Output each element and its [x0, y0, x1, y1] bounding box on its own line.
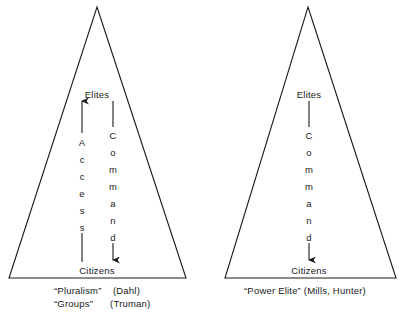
pluralism-top-node-label: Elites	[85, 89, 109, 100]
command-letter-right: n	[302, 216, 316, 226]
command-letter-right: m	[302, 165, 316, 175]
command-letter-right: C	[302, 131, 316, 141]
command-letter-right: o	[302, 148, 316, 158]
command-letter-right: m	[302, 182, 316, 192]
access-letter: A	[75, 138, 89, 148]
command-letter-left: o	[106, 148, 120, 158]
command-letter-right: d	[302, 233, 316, 243]
pluralism-caption-line-2: “Groups” (Truman)	[54, 298, 150, 309]
command-letter-left: C	[106, 131, 120, 141]
access-letter: c	[75, 155, 89, 165]
command-letter-left: m	[106, 182, 120, 192]
command-letter-left: a	[106, 199, 120, 209]
power-elite-bottom-node-label: Citizens	[291, 265, 326, 276]
power-models-diagram: Elites Citizens A c c e s s C o m m a n …	[0, 0, 402, 316]
pluralism-bottom-node-label: Citizens	[79, 265, 114, 276]
command-letter-right: a	[302, 199, 316, 209]
diagram-vector-layer	[0, 0, 402, 316]
power-elite-top-node-label: Elites	[297, 89, 321, 100]
command-letter-left: d	[106, 233, 120, 243]
access-letter: e	[75, 189, 89, 199]
power-elite-caption-line-1: “Power Elite” (Mills, Hunter)	[244, 285, 366, 296]
pluralism-triangle-group	[9, 7, 186, 278]
access-letter: s	[75, 206, 89, 216]
command-letter-left: n	[106, 216, 120, 226]
access-letter: s	[75, 223, 89, 233]
pluralism-triangle-outline	[9, 7, 186, 278]
pluralism-caption-line-1: “Pluralism” (Dahl)	[54, 285, 140, 296]
command-letter-left: m	[106, 165, 120, 175]
access-letter: c	[75, 172, 89, 182]
